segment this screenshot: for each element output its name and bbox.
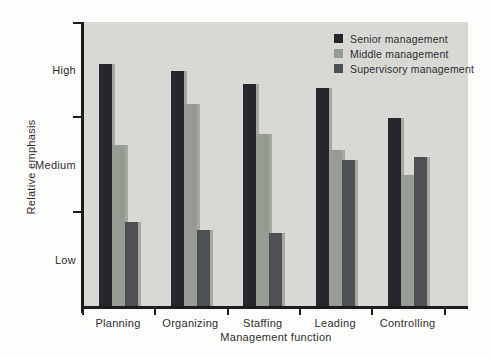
legend-label: Senior management bbox=[350, 33, 448, 45]
y-axis-line bbox=[81, 22, 84, 313]
legend-swatch-icon bbox=[334, 34, 343, 43]
legend-label: Supervisory management bbox=[350, 63, 474, 75]
legend-label: Middle management bbox=[350, 48, 449, 60]
bar-middle-organizing bbox=[184, 104, 197, 307]
x-label-controlling: Controlling bbox=[380, 317, 436, 329]
x-tick bbox=[444, 309, 446, 315]
x-tick bbox=[82, 309, 84, 315]
legend-swatch-icon bbox=[334, 64, 343, 73]
bar-middle-controlling bbox=[401, 175, 414, 307]
legend-item-senior: Senior management bbox=[334, 31, 474, 46]
bar-middle-leading bbox=[329, 150, 342, 307]
bar-supervisory-leading bbox=[342, 160, 355, 307]
bar-senior-planning bbox=[99, 64, 112, 307]
bar-supervisory-organizing bbox=[197, 230, 210, 307]
y-label-high: High bbox=[52, 64, 76, 76]
y-tick bbox=[73, 211, 81, 213]
legend-item-supervisory: Supervisory management bbox=[334, 61, 474, 76]
x-tick bbox=[371, 309, 373, 315]
bar-senior-leading bbox=[316, 88, 329, 307]
bar-chart-figure: HighMediumLow PlanningOrganizingStaffing… bbox=[0, 0, 492, 358]
bar-supervisory-staffing bbox=[269, 233, 282, 307]
legend: Senior managementMiddle managementSuperv… bbox=[334, 31, 474, 76]
bar-middle-staffing bbox=[256, 134, 269, 307]
bar-supervisory-planning bbox=[125, 222, 138, 307]
y-label-low: Low bbox=[55, 254, 76, 266]
x-tick bbox=[227, 309, 229, 315]
bar-senior-staffing bbox=[243, 84, 256, 307]
y-tick bbox=[73, 22, 81, 24]
x-axis-title: Management function bbox=[220, 331, 332, 343]
y-label-medium: Medium bbox=[35, 159, 76, 171]
bar-senior-organizing bbox=[171, 71, 184, 307]
bar-senior-controlling bbox=[388, 118, 401, 307]
y-axis-title: Relative emphasis bbox=[25, 120, 37, 215]
x-label-staffing: Staffing bbox=[243, 317, 283, 329]
legend-item-middle: Middle management bbox=[334, 46, 474, 61]
bar-supervisory-controlling bbox=[414, 157, 427, 307]
x-tick bbox=[299, 309, 301, 315]
y-tick bbox=[73, 116, 81, 118]
x-axis-line bbox=[81, 306, 468, 309]
legend-swatch-icon bbox=[334, 49, 343, 58]
bar-middle-planning bbox=[112, 145, 125, 307]
x-label-organizing: Organizing bbox=[162, 317, 218, 329]
x-label-leading: Leading bbox=[315, 317, 356, 329]
x-tick bbox=[154, 309, 156, 315]
x-label-planning: Planning bbox=[95, 317, 140, 329]
